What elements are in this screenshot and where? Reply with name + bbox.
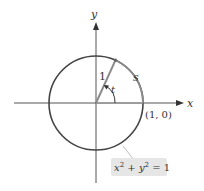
label-leader-line [123, 146, 134, 160]
angle-label: t [111, 84, 116, 95]
x-axis-label: x [187, 97, 194, 110]
arc-s [116, 60, 144, 103]
point-on-circle [114, 59, 117, 62]
x-axis-arrow-icon [176, 100, 184, 106]
arc-label: s [133, 71, 139, 84]
y-axis-arrow-icon [93, 22, 99, 30]
y-axis-label: y [90, 8, 98, 21]
point-label: (1, 0) [145, 109, 172, 120]
radius-label: 1 [99, 70, 106, 83]
unit-circle-diagram: y x 1 s t (1, 0) x2 + y2 = 1 [0, 0, 204, 191]
